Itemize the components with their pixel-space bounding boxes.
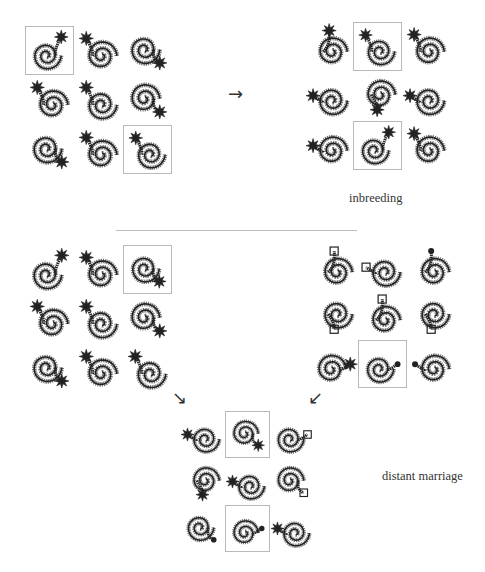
star-head-icon — [153, 324, 167, 338]
ornament-cell — [402, 71, 450, 120]
star-head-icon — [226, 475, 239, 488]
ornament-cell — [402, 121, 450, 170]
ornament-cell — [270, 505, 315, 552]
spiral-ornament-icon — [123, 26, 172, 75]
offspring-grid-inbreeding — [305, 22, 450, 170]
star-head-icon — [306, 89, 320, 103]
spiral-ornament-icon — [74, 75, 123, 124]
bead-head-icon — [428, 248, 434, 254]
spiral-ornament-icon — [25, 294, 74, 343]
ornament-cell — [74, 245, 123, 294]
ornament-cell-highlighted — [123, 245, 172, 294]
spiral-ornament-icon — [124, 246, 171, 293]
ornament-cell — [25, 245, 74, 294]
ornament-cell — [74, 26, 123, 75]
star-head-icon — [129, 131, 143, 145]
star-head-icon — [79, 31, 93, 45]
ornament-cell — [180, 458, 225, 505]
spiral-ornament-icon — [123, 75, 172, 124]
ornament-cell — [74, 125, 123, 174]
star-head-icon — [30, 300, 44, 314]
ornament-cell-highlighted — [358, 340, 406, 388]
spiral-ornament-icon — [305, 22, 353, 71]
offspring-grid-distant-marriage — [180, 411, 315, 552]
star-head-icon — [152, 275, 166, 289]
spiral-ornament-icon — [358, 243, 406, 291]
star-head-icon — [30, 81, 44, 95]
parent-grid-middle-right — [310, 243, 455, 388]
star-head-icon — [55, 248, 69, 262]
parent-grid-middle-left — [25, 245, 172, 393]
spiral-ornament-icon — [74, 245, 123, 294]
spiral-ornament-icon — [353, 71, 401, 120]
star-head-icon — [370, 103, 384, 117]
spiral-ornament-icon — [180, 505, 225, 552]
ornament-cell-highlighted — [25, 26, 74, 75]
star-head-icon — [55, 373, 69, 387]
ornament-cell — [74, 75, 123, 124]
ornament-cell — [270, 458, 315, 505]
spiral-ornament-icon — [123, 294, 172, 343]
bead-head-icon — [395, 361, 401, 367]
ornament-cell — [25, 75, 74, 124]
star-head-icon — [54, 30, 68, 44]
spiral-ornament-icon — [123, 344, 172, 393]
spiral-ornament-icon — [359, 341, 405, 387]
ornament-cell — [123, 26, 172, 75]
spiral-ornament-icon — [402, 71, 450, 120]
ornament-cell — [407, 243, 455, 291]
spiral-ornament-icon — [407, 291, 455, 339]
spiral-ornament-icon — [407, 340, 455, 388]
ornament-cell — [180, 505, 225, 552]
ornament-cell — [353, 71, 401, 120]
spiral-ornament-icon — [74, 26, 123, 75]
ornament-cell — [74, 294, 123, 343]
star-head-icon — [407, 126, 421, 140]
section-divider — [116, 230, 357, 231]
ornament-cell — [123, 344, 172, 393]
spiral-ornament-icon — [226, 412, 269, 457]
star-head-icon — [403, 89, 417, 103]
bead-head-icon — [259, 526, 264, 531]
spiral-ornament-icon — [225, 458, 270, 505]
star-head-icon — [79, 300, 93, 314]
ornament-cell — [310, 340, 358, 388]
star-head-icon — [153, 56, 167, 70]
spiral-ornament-icon — [310, 243, 358, 291]
ornament-cell — [402, 22, 450, 71]
star-head-icon — [79, 250, 93, 264]
spiral-ornament-icon — [74, 344, 123, 393]
spiral-ornament-icon — [310, 291, 358, 339]
star-head-icon — [271, 522, 284, 535]
spiral-ornament-icon — [407, 243, 455, 291]
ornament-cell-highlighted — [123, 125, 172, 174]
spiral-ornament-icon — [25, 344, 74, 393]
spiral-ornament-icon — [358, 291, 406, 339]
ornament-cell — [305, 71, 353, 120]
down-left-arrow-icon: ↙ — [308, 389, 323, 407]
ornament-cell — [123, 75, 172, 124]
ornament-cell-highlighted — [353, 121, 401, 170]
spiral-ornament-icon — [180, 411, 225, 458]
star-head-icon — [322, 24, 336, 38]
down-right-arrow-icon: ↘ — [172, 389, 187, 407]
ornament-cell — [25, 294, 74, 343]
parent-grid-top-left — [25, 26, 172, 174]
ornament-cell-highlighted — [225, 411, 270, 458]
spiral-ornament-icon — [74, 125, 123, 174]
bead-head-icon — [211, 537, 217, 543]
star-head-icon — [79, 130, 93, 144]
ornament-cell — [123, 294, 172, 343]
ornament-cell-highlighted — [353, 22, 401, 71]
bead-head-icon — [412, 361, 418, 367]
spiral-ornament-icon — [354, 122, 400, 169]
inbreeding-label: inbreeding — [349, 191, 402, 206]
spiral-ornament-icon — [74, 294, 123, 343]
ornament-cell — [25, 344, 74, 393]
star-head-icon — [79, 81, 93, 95]
spiral-ornament-icon — [26, 27, 73, 74]
spiral-ornament-icon — [270, 458, 315, 505]
star-head-icon — [128, 349, 142, 363]
ornament-cell-highlighted — [225, 505, 270, 552]
spiral-ornament-icon — [305, 71, 353, 120]
